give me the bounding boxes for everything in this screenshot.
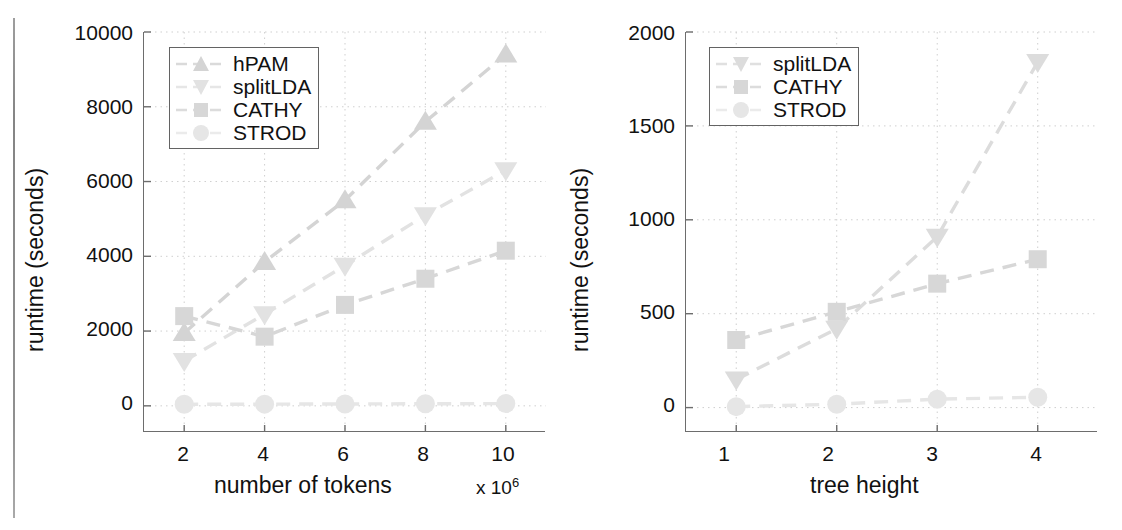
x-tick-label: 2 — [160, 443, 206, 464]
legend-label: STROD — [773, 99, 847, 121]
legend-label: CATHY — [233, 99, 303, 121]
y-tick-label: 1500 — [575, 115, 675, 136]
circle-marker — [928, 390, 947, 409]
triangle-up-marker — [494, 43, 517, 62]
triangle-down-marker — [414, 207, 437, 226]
x-tick-label: 10 — [480, 443, 526, 464]
legend-label: hPAM — [233, 53, 289, 75]
square-marker — [1029, 250, 1047, 268]
square-marker — [497, 242, 515, 260]
square-icon — [715, 76, 767, 98]
circle-icon — [715, 99, 767, 121]
square-marker — [928, 275, 946, 293]
y-tick-label: 2000 — [575, 22, 675, 43]
circle-marker — [416, 394, 435, 413]
x-axis-title: tree height — [810, 472, 919, 499]
triangle-up-icon — [175, 53, 227, 75]
triangle-down-marker — [1026, 54, 1049, 73]
circle-marker — [336, 394, 355, 413]
x-tick-label: 1 — [701, 443, 747, 464]
legend-item[interactable]: hPAM — [175, 52, 311, 75]
x-tick-label: 4 — [240, 443, 286, 464]
triangle-down-marker — [494, 162, 517, 181]
circle-marker — [727, 397, 746, 416]
x-axis-multiplier-exponent: 6 — [512, 475, 519, 490]
square-marker — [727, 331, 745, 349]
figure-page: 10000 8000 6000 4000 2000 0 2 4 6 8 10 n… — [0, 0, 1122, 530]
triangle-down-marker — [825, 321, 848, 340]
legend-item[interactable]: CATHY — [175, 98, 311, 121]
square-marker — [256, 328, 274, 346]
circle-marker — [255, 395, 274, 414]
y-axis-title: runtime (seconds) — [567, 168, 594, 352]
y-tick-label: 0 — [33, 392, 133, 413]
legend-item[interactable]: splitLDA — [715, 52, 851, 75]
square-icon — [175, 99, 227, 121]
triangle-down-marker — [173, 353, 196, 372]
circle-marker — [827, 395, 846, 414]
x-axis-title: number of tokens — [214, 472, 392, 499]
square-marker — [175, 307, 193, 325]
triangle-down-marker — [334, 258, 357, 277]
square-marker — [828, 303, 846, 321]
square-marker — [416, 270, 434, 288]
legend-label: splitLDA — [773, 53, 851, 75]
triangle-down-icon — [715, 53, 767, 75]
x-tick-label: 2 — [805, 443, 851, 464]
x-tick-label: 4 — [1013, 443, 1059, 464]
x-tick-label: 8 — [400, 443, 446, 464]
circle-icon — [175, 122, 227, 144]
legend-label: splitLDA — [233, 76, 311, 98]
legend-label: CATHY — [773, 76, 843, 98]
x-axis-multiplier: x 106 — [476, 475, 519, 499]
y-axis-title: runtime (seconds) — [22, 168, 49, 352]
legend[interactable]: hPAM splitLDA CATHY — [169, 47, 319, 149]
x-tick-label: 6 — [320, 443, 366, 464]
x-tick-label: 3 — [909, 443, 955, 464]
legend-label: STROD — [233, 122, 307, 144]
figure-number-of-tokens: 10000 8000 6000 4000 2000 0 2 4 6 8 10 n… — [0, 0, 561, 530]
x-axis-multiplier-base: x 10 — [476, 477, 512, 498]
triangle-down-marker — [253, 306, 276, 325]
legend-item[interactable]: STROD — [175, 121, 311, 144]
circle-marker — [1028, 388, 1047, 407]
circle-marker — [496, 394, 515, 413]
y-tick-label: 10000 — [33, 22, 133, 43]
triangle-down-marker — [725, 371, 748, 390]
series-STROD — [727, 388, 1047, 416]
legend-item[interactable]: splitLDA — [175, 75, 311, 98]
series-STROD — [175, 394, 516, 414]
circle-marker — [175, 395, 194, 414]
y-tick-label: 0 — [575, 394, 675, 415]
legend-item[interactable]: CATHY — [715, 75, 851, 98]
triangle-down-icon — [175, 76, 227, 98]
square-marker — [336, 296, 354, 314]
legend-item[interactable]: STROD — [715, 98, 851, 121]
legend[interactable]: splitLDA CATHY STROD — [709, 47, 859, 126]
figure-tree-height: 2000 1500 1000 500 0 1 2 3 4 tree height… — [561, 0, 1122, 530]
y-tick-label: 8000 — [33, 96, 133, 117]
series-CATHY — [727, 250, 1046, 349]
